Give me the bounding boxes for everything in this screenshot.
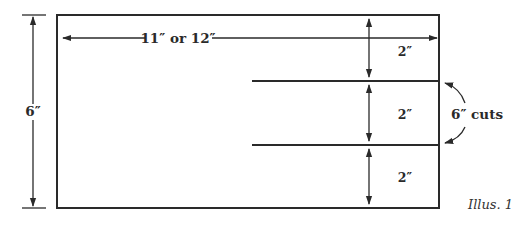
board-outline [57,15,439,208]
callout-arrow-lower-icon [445,127,465,143]
width-label: 11″ or 12″ [140,30,215,46]
cut-diagram: 6″ 11″ or 12″ 2″ 2″ 2″ 6″ cuts Illus. 1 [0,0,528,226]
callout-label: 6″ cuts [451,106,503,122]
section-2-label: 2″ [398,107,413,122]
section-3-label: 2″ [398,170,413,185]
height-label: 6″ [25,103,40,119]
callout-arrow-upper-icon [445,83,465,103]
figure-caption: Illus. 1 [467,197,513,212]
section-1-label: 2″ [398,44,413,59]
